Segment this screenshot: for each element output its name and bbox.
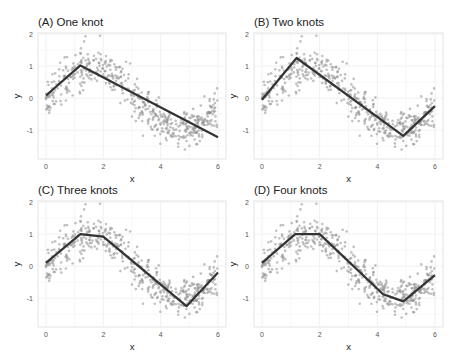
- x-axis-label: x: [346, 173, 351, 184]
- y-tick-label: 0: [29, 263, 33, 270]
- x-tick-label: 0: [44, 331, 48, 338]
- panel-c: (C) Three knots0246-1012xy: [11, 184, 226, 352]
- x-tick-label: 6: [433, 163, 437, 170]
- x-tick-label: 2: [101, 331, 105, 338]
- x-tick-label: 6: [433, 331, 437, 338]
- panel-title: (B) Two knots: [254, 16, 324, 28]
- x-tick-label: 2: [318, 163, 322, 170]
- panel-d: (D) Four knots0246-1012xy: [227, 184, 443, 352]
- y-axis-label: y: [227, 93, 238, 98]
- x-tick-label: 2: [318, 331, 322, 338]
- figure-4-panel-spline-fits: (A) One knot0246-1012xy(B) Two knots0246…: [0, 0, 464, 362]
- y-tick-label: 0: [245, 263, 249, 270]
- x-tick-label: 4: [159, 163, 163, 170]
- x-tick-label: 0: [260, 163, 264, 170]
- panel-a: (A) One knot0246-1012xy: [11, 16, 226, 184]
- x-axis-label: x: [346, 341, 351, 352]
- y-tick-label: 1: [29, 231, 33, 238]
- y-tick-label: -1: [27, 127, 33, 134]
- y-tick-label: 2: [29, 31, 33, 38]
- x-tick-label: 4: [159, 331, 163, 338]
- y-tick-label: 2: [245, 31, 249, 38]
- y-tick-label: 1: [29, 63, 33, 70]
- panel-title: (D) Four knots: [254, 184, 328, 196]
- x-tick-label: 0: [260, 331, 264, 338]
- y-tick-label: 0: [245, 95, 249, 102]
- y-tick-label: 2: [29, 199, 33, 206]
- x-tick-label: 2: [101, 163, 105, 170]
- y-axis-label: y: [11, 93, 22, 98]
- panel-title: (C) Three knots: [38, 184, 118, 196]
- panel-b: (B) Two knots0246-1012xy: [227, 16, 443, 184]
- y-axis-label: y: [227, 261, 238, 266]
- x-tick-label: 6: [216, 163, 220, 170]
- x-tick-label: 4: [375, 331, 379, 338]
- x-tick-label: 0: [44, 163, 48, 170]
- y-tick-label: -1: [243, 295, 249, 302]
- y-axis-label: y: [11, 261, 22, 266]
- y-tick-label: -1: [27, 295, 33, 302]
- y-tick-label: 0: [29, 95, 33, 102]
- panel-title: (A) One knot: [38, 16, 104, 28]
- y-tick-label: -1: [243, 127, 249, 134]
- y-tick-label: 1: [245, 231, 249, 238]
- x-axis-label: x: [130, 341, 135, 352]
- figure-canvas: (A) One knot0246-1012xy(B) Two knots0246…: [0, 0, 464, 362]
- x-axis-label: x: [130, 173, 135, 184]
- x-tick-label: 6: [216, 331, 220, 338]
- x-tick-label: 4: [375, 163, 379, 170]
- y-tick-label: 2: [245, 199, 249, 206]
- y-tick-label: 1: [245, 63, 249, 70]
